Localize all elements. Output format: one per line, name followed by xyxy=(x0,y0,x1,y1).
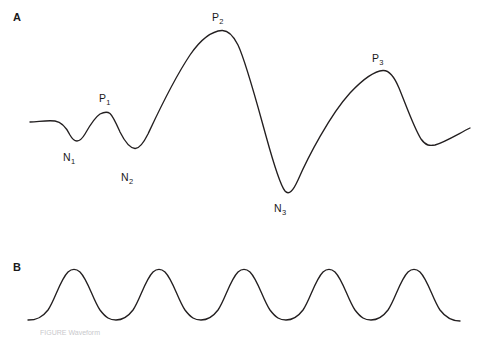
trace-panel-a xyxy=(30,30,470,192)
panel-label-a: A xyxy=(13,12,21,23)
label-sub-p2: 2 xyxy=(219,17,223,26)
label-sub-p3: 3 xyxy=(379,58,383,67)
label-base-p1: P xyxy=(99,92,106,104)
waveform-label-n1: N1 xyxy=(63,152,75,163)
trace-panel-b xyxy=(28,269,460,321)
waveform-label-p1: P1 xyxy=(99,93,110,104)
label-sub-n2: 2 xyxy=(129,177,133,186)
label-base-n3: N xyxy=(274,202,282,214)
label-sub-n3: 3 xyxy=(282,208,286,217)
label-sub-p1: 1 xyxy=(106,98,110,107)
figure-caption: FIGURE Waveform xyxy=(40,329,470,337)
waveform-label-n2: N2 xyxy=(121,172,133,183)
waveform-label-p3: P3 xyxy=(372,53,383,64)
label-base-p3: P xyxy=(372,52,379,64)
figure-container: A B N1 P1 N2 P2 N3 P3 FIGURE Waveform xyxy=(0,0,481,337)
label-base-p2: P xyxy=(212,11,219,23)
waveform-label-n3: N3 xyxy=(274,203,286,214)
panel-label-b: B xyxy=(13,262,21,273)
label-sub-n1: 1 xyxy=(71,157,75,166)
label-base-n2: N xyxy=(121,171,129,183)
waveform-canvas xyxy=(0,0,481,337)
waveform-label-p2: P2 xyxy=(212,12,223,23)
label-base-n1: N xyxy=(63,151,71,163)
